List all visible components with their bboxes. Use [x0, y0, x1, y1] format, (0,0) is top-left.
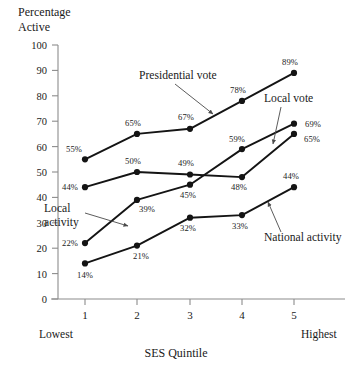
annotation-local-activity: Local activity	[44, 202, 128, 229]
data-point	[291, 184, 297, 190]
x-tick-label-1: 1	[82, 309, 88, 321]
data-point	[291, 70, 297, 76]
value-label: 44%	[283, 171, 299, 181]
value-label: 65%	[304, 134, 320, 144]
data-point	[134, 169, 140, 175]
annotation-label-line2: activity	[44, 216, 79, 229]
data-point	[134, 197, 140, 203]
value-label: 59%	[229, 134, 245, 144]
chart-container: Percentage Active 100 90 80 70 60 50 40 …	[0, 0, 352, 367]
value-label: 50%	[125, 156, 141, 166]
y-axis-title-line2: Active	[18, 20, 50, 34]
y-axis-ticks	[52, 45, 58, 299]
value-label: 32%	[180, 223, 196, 233]
y-tick-label-70: 70	[37, 116, 48, 127]
value-label: 67%	[178, 112, 194, 122]
value-label: 78%	[230, 85, 246, 95]
x-axis-highest-label: Highest	[301, 328, 338, 341]
value-label: 21%	[133, 251, 149, 261]
value-label: 48%	[231, 182, 247, 192]
annotation-label: National activity	[264, 231, 342, 244]
x-axis-title: SES Quintile	[144, 346, 207, 360]
data-point	[82, 240, 88, 246]
annotation-label: Presidential vote	[139, 69, 217, 82]
data-point	[82, 260, 88, 266]
y-tick-label-0: 0	[42, 294, 47, 305]
value-label: 45%	[180, 190, 196, 200]
data-point	[291, 131, 297, 137]
x-axis-ticks	[85, 299, 294, 305]
value-label: 69%	[305, 119, 321, 129]
value-label: 39%	[139, 204, 155, 214]
x-axis-lowest-label: Lowest	[39, 328, 74, 340]
annotation-presidential-vote: Presidential vote	[139, 69, 217, 114]
y-tick-label-20: 20	[37, 243, 48, 254]
value-label: 49%	[178, 158, 194, 168]
data-point	[134, 131, 140, 137]
series-national-activity: 14% 21% 32% 33% 44%	[77, 171, 299, 280]
y-tick-label-50: 50	[37, 167, 48, 178]
annotation-national-activity: National activity	[264, 202, 342, 244]
y-tick-label-10: 10	[37, 269, 48, 280]
data-point	[134, 243, 140, 249]
y-tick-label-60: 60	[37, 142, 48, 153]
data-point	[187, 182, 193, 188]
data-point	[239, 212, 245, 218]
x-tick-label-2: 2	[134, 309, 140, 321]
data-point	[82, 156, 88, 162]
data-point	[82, 184, 88, 190]
x-tick-label-3: 3	[187, 309, 193, 321]
data-point	[291, 121, 297, 127]
annotation-label: Local vote	[264, 92, 313, 105]
y-tick-label-80: 80	[37, 91, 48, 102]
y-tick-label-90: 90	[37, 65, 48, 76]
value-label: 89%	[282, 57, 298, 67]
value-label: 33%	[232, 221, 248, 231]
value-label: 14%	[77, 270, 93, 280]
value-label: 55%	[66, 144, 82, 154]
value-label: 65%	[125, 118, 141, 128]
data-point	[239, 98, 245, 104]
y-axis-title-line1: Percentage	[18, 5, 71, 19]
line-chart: Percentage Active 100 90 80 70 60 50 40 …	[0, 0, 352, 367]
value-label: 44%	[62, 182, 78, 192]
data-point	[187, 215, 193, 221]
data-point	[187, 126, 193, 132]
data-point	[187, 171, 193, 177]
annotation-label-line1: Local	[44, 202, 70, 215]
data-point	[239, 146, 245, 152]
x-tick-label-4: 4	[239, 309, 245, 321]
data-point	[239, 174, 245, 180]
y-tick-label-100: 100	[31, 40, 47, 51]
x-tick-label-5: 5	[291, 309, 297, 321]
value-label: 22%	[62, 238, 78, 248]
